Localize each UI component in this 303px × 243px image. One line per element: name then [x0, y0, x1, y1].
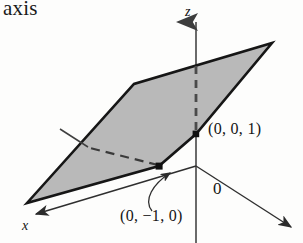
point-marker-z-intercept [193, 131, 200, 138]
origin-label: 0 [213, 180, 222, 197]
plane-diagram-figure: axis z x 0 (0, 0, 1) (0, −1, 0) [0, 0, 303, 243]
x-axis-label: x [22, 219, 28, 233]
point-label-y-intercept: (0, −1, 0) [120, 208, 183, 224]
z-axis-label: z [185, 5, 190, 19]
caption-fragment-text: axis [3, 0, 38, 19]
point-label-z-intercept: (0, 0, 1) [208, 121, 261, 137]
point-marker-y-intercept [156, 163, 163, 170]
y-axis [196, 166, 291, 227]
